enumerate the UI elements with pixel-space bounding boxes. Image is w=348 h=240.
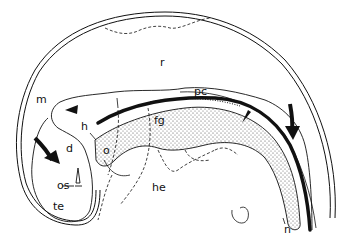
foregut-bud [232, 207, 249, 223]
tick-mark [117, 98, 118, 108]
label-te: te [53, 201, 64, 212]
right-curved-arrow [285, 104, 300, 140]
label-fg: fg [154, 115, 165, 126]
h-pointer [90, 133, 96, 140]
left-curved-arrow [35, 138, 60, 164]
label-r: r [160, 57, 165, 68]
label-o: o [103, 145, 110, 156]
label-d: d [66, 143, 73, 154]
left-triangle-marker [65, 105, 78, 114]
label-pc: pc [194, 86, 207, 97]
label-h: h [81, 121, 88, 132]
label-os: os [57, 180, 69, 191]
foregut-stippled [95, 107, 300, 230]
label-he: he [152, 182, 166, 193]
embryo-diagram: r m pc h fg o d os te he n [0, 0, 348, 240]
label-m: m [36, 94, 47, 105]
label-n: n [284, 224, 291, 235]
